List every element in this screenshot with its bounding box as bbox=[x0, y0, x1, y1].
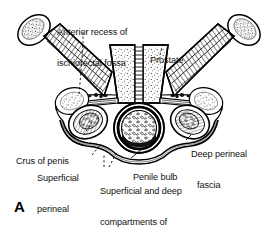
label-superficial-deep-compartments: Superficial and deep compartments of sup… bbox=[100, 165, 201, 229]
label-deep-perineal-fascia-line1: Deep perineal bbox=[191, 149, 247, 159]
label-prostate: Prostate bbox=[150, 34, 183, 76]
label-superficial-perineal-fascia-line1: Superficial bbox=[37, 173, 79, 183]
label-superficial-perineal-fascia-line2: perineal bbox=[37, 204, 79, 214]
anatomy-figure: Anterior recess of ischiorectal fossa Pr… bbox=[0, 0, 278, 229]
penile-bulb-shape bbox=[114, 103, 164, 153]
label-compartments-line2: compartments of bbox=[100, 217, 201, 227]
label-anterior-recess-line2: ischiorectal fossa bbox=[57, 58, 127, 68]
label-compartments-line1: Superficial and deep bbox=[100, 186, 201, 196]
label-superficial-perineal-fascia: Superficial perineal fascia bbox=[37, 152, 79, 229]
label-anterior-recess: Anterior recess of ischiorectal fossa bbox=[57, 6, 127, 79]
figure-letter: A bbox=[14, 198, 25, 215]
label-anterior-recess-line1: Anterior recess of bbox=[57, 27, 127, 37]
label-prostate-line1: Prostate bbox=[150, 55, 183, 65]
